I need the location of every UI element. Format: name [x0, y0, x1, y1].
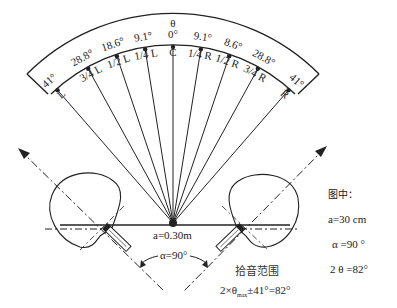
position-label: 3/4 L [77, 62, 104, 84]
right-axis-arrow-icon [315, 146, 327, 157]
alpha-label: α=90° [160, 249, 187, 261]
pickup-range-title: 拾音范围 [235, 264, 279, 278]
pickup-range-formula: 2×θmax±41°=82° [220, 284, 290, 298]
angle-label: 41° [287, 71, 306, 90]
center-point [169, 219, 177, 227]
position-label: 1/2 L [105, 51, 131, 70]
angle-label: 8.6° [223, 35, 244, 52]
angle-label: 18.6° [100, 34, 126, 53]
position-label: 1/2 R [214, 51, 241, 70]
position-label: 1/4 L [133, 46, 158, 62]
legend-theta: 2 θ =82° [328, 257, 397, 282]
angle-label: 9.1° [133, 29, 153, 44]
position-label: C [169, 46, 176, 58]
fan-line [173, 56, 229, 223]
angle-label: 41° [39, 71, 58, 90]
legend-spacing: a=30 cm [328, 207, 397, 232]
fan-line [117, 56, 173, 223]
legend-alpha: α =90 ° [328, 232, 397, 257]
spacing-label: a=0.30m [153, 229, 192, 241]
angle-label: 9.1° [193, 29, 213, 44]
angle-label: 0° [168, 28, 178, 40]
left-microphone [102, 223, 131, 252]
position-label: 3/4 R [242, 62, 270, 84]
position-label: 1/4 R [187, 46, 213, 62]
right-microphone [216, 223, 245, 252]
legend-title: 图中： [328, 182, 397, 207]
fan-line [173, 90, 288, 223]
legend: 图中： a=30 cm α =90 ° 2 θ =82° [328, 182, 397, 282]
left-mic-axis [20, 150, 165, 292]
theta-label: θ [170, 17, 175, 29]
